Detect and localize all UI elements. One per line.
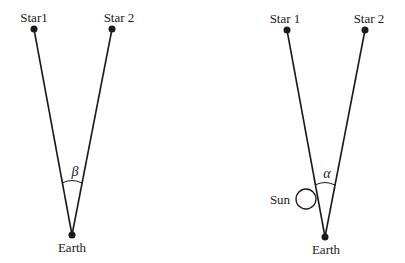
star1-label-left: Star1	[20, 10, 47, 25]
star2-label-left: Star 2	[104, 10, 135, 25]
left-panel: Star1 Star 2 Earth β	[20, 10, 134, 255]
sightline-star1-right	[287, 30, 325, 237]
star1-dot-right	[284, 27, 291, 34]
earth-dot-right	[322, 234, 329, 241]
sightline-star1-left	[34, 29, 72, 235]
sightline-star2-right	[325, 30, 365, 237]
angle-arc-beta	[62, 181, 82, 184]
star2-label-right: Star 2	[354, 11, 385, 26]
star2-dot-left	[109, 26, 116, 33]
angle-label-alpha: α	[323, 166, 331, 181]
parallax-diagram: Star1 Star 2 Earth β Star 1 Star 2 Earth…	[0, 0, 405, 263]
angle-arc-alpha	[315, 183, 335, 186]
sun-circle	[296, 189, 316, 209]
angle-label-beta: β	[71, 164, 79, 179]
star1-dot-left	[31, 26, 38, 33]
earth-dot-left	[69, 232, 76, 239]
earth-label-left: Earth	[58, 240, 87, 255]
earth-label-right: Earth	[312, 242, 341, 257]
star1-label-right: Star 1	[270, 11, 301, 26]
right-panel: Star 1 Star 2 Earth Sun α	[270, 11, 385, 257]
sightline-star2-left	[72, 29, 112, 235]
sun-label: Sun	[270, 192, 291, 207]
star2-dot-right	[362, 27, 369, 34]
